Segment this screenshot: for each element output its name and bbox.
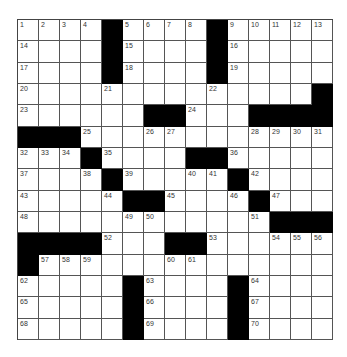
grid-cell[interactable] xyxy=(102,297,123,318)
grid-cell[interactable]: 16 xyxy=(228,41,249,62)
grid-cell[interactable] xyxy=(186,84,207,105)
grid-cell[interactable] xyxy=(228,212,249,233)
grid-cell[interactable] xyxy=(291,148,312,169)
grid-cell[interactable] xyxy=(270,255,291,276)
grid-cell[interactable] xyxy=(165,148,186,169)
grid-cell[interactable] xyxy=(81,84,102,105)
grid-cell[interactable] xyxy=(165,84,186,105)
grid-cell[interactable]: 18 xyxy=(123,63,144,84)
grid-cell[interactable] xyxy=(60,169,81,190)
grid-cell[interactable]: 58 xyxy=(60,255,81,276)
grid-cell[interactable]: 46 xyxy=(228,191,249,212)
grid-cell[interactable]: 17 xyxy=(18,63,39,84)
grid-cell[interactable] xyxy=(312,255,333,276)
grid-cell[interactable] xyxy=(39,84,60,105)
grid-cell[interactable]: 24 xyxy=(186,105,207,126)
grid-cell[interactable]: 54 xyxy=(270,233,291,254)
grid-cell[interactable]: 6 xyxy=(144,20,165,41)
grid-cell[interactable] xyxy=(102,276,123,297)
grid-cell[interactable]: 12 xyxy=(291,20,312,41)
grid-cell[interactable] xyxy=(312,297,333,318)
grid-cell[interactable]: 8 xyxy=(186,20,207,41)
grid-cell[interactable] xyxy=(81,297,102,318)
grid-cell[interactable] xyxy=(207,191,228,212)
grid-cell[interactable] xyxy=(270,41,291,62)
grid-cell[interactable] xyxy=(102,127,123,148)
grid-cell[interactable]: 29 xyxy=(270,127,291,148)
grid-cell[interactable]: 67 xyxy=(249,297,270,318)
grid-cell[interactable] xyxy=(270,169,291,190)
grid-cell[interactable]: 33 xyxy=(39,148,60,169)
grid-cell[interactable] xyxy=(270,297,291,318)
grid-cell[interactable]: 45 xyxy=(165,191,186,212)
grid-cell[interactable] xyxy=(186,319,207,340)
grid-cell[interactable]: 57 xyxy=(39,255,60,276)
grid-cell[interactable]: 55 xyxy=(291,233,312,254)
grid-cell[interactable]: 43 xyxy=(18,191,39,212)
grid-cell[interactable]: 35 xyxy=(102,148,123,169)
grid-cell[interactable]: 41 xyxy=(207,169,228,190)
grid-cell[interactable] xyxy=(102,212,123,233)
grid-cell[interactable]: 28 xyxy=(249,127,270,148)
grid-cell[interactable]: 49 xyxy=(123,212,144,233)
grid-cell[interactable] xyxy=(228,233,249,254)
grid-cell[interactable] xyxy=(291,169,312,190)
grid-cell[interactable] xyxy=(81,63,102,84)
grid-cell[interactable] xyxy=(165,41,186,62)
grid-cell[interactable]: 2 xyxy=(39,20,60,41)
grid-cell[interactable] xyxy=(228,127,249,148)
grid-cell[interactable] xyxy=(39,276,60,297)
grid-cell[interactable] xyxy=(249,148,270,169)
grid-cell[interactable]: 19 xyxy=(228,63,249,84)
grid-cell[interactable] xyxy=(291,297,312,318)
grid-cell[interactable] xyxy=(270,276,291,297)
grid-cell[interactable] xyxy=(60,105,81,126)
grid-cell[interactable]: 5 xyxy=(123,20,144,41)
grid-cell[interactable]: 30 xyxy=(291,127,312,148)
grid-cell[interactable]: 27 xyxy=(165,127,186,148)
grid-cell[interactable] xyxy=(228,84,249,105)
grid-cell[interactable] xyxy=(144,169,165,190)
grid-cell[interactable] xyxy=(123,84,144,105)
grid-cell[interactable] xyxy=(186,212,207,233)
grid-cell[interactable] xyxy=(270,84,291,105)
grid-cell[interactable]: 11 xyxy=(270,20,291,41)
grid-cell[interactable] xyxy=(81,41,102,62)
grid-cell[interactable] xyxy=(39,63,60,84)
grid-cell[interactable]: 70 xyxy=(249,319,270,340)
grid-cell[interactable] xyxy=(186,276,207,297)
grid-cell[interactable] xyxy=(228,105,249,126)
grid-cell[interactable] xyxy=(39,105,60,126)
grid-cell[interactable] xyxy=(102,255,123,276)
grid-cell[interactable] xyxy=(81,276,102,297)
grid-cell[interactable]: 37 xyxy=(18,169,39,190)
grid-cell[interactable] xyxy=(102,319,123,340)
grid-cell[interactable] xyxy=(186,127,207,148)
grid-cell[interactable] xyxy=(186,63,207,84)
grid-cell[interactable] xyxy=(39,41,60,62)
grid-cell[interactable] xyxy=(165,297,186,318)
grid-cell[interactable] xyxy=(144,233,165,254)
grid-cell[interactable] xyxy=(312,319,333,340)
grid-cell[interactable] xyxy=(144,255,165,276)
grid-cell[interactable] xyxy=(144,148,165,169)
grid-cell[interactable]: 22 xyxy=(207,84,228,105)
grid-cell[interactable] xyxy=(165,63,186,84)
grid-cell[interactable]: 60 xyxy=(165,255,186,276)
grid-cell[interactable] xyxy=(291,276,312,297)
grid-cell[interactable] xyxy=(81,319,102,340)
grid-cell[interactable]: 38 xyxy=(81,169,102,190)
grid-cell[interactable]: 31 xyxy=(312,127,333,148)
grid-cell[interactable]: 56 xyxy=(312,233,333,254)
grid-cell[interactable] xyxy=(144,63,165,84)
grid-cell[interactable] xyxy=(81,191,102,212)
grid-cell[interactable] xyxy=(144,84,165,105)
grid-cell[interactable] xyxy=(207,105,228,126)
grid-cell[interactable] xyxy=(312,41,333,62)
grid-cell[interactable]: 44 xyxy=(102,191,123,212)
grid-cell[interactable] xyxy=(270,319,291,340)
grid-cell[interactable] xyxy=(60,63,81,84)
grid-cell[interactable] xyxy=(165,319,186,340)
grid-cell[interactable]: 3 xyxy=(60,20,81,41)
grid-cell[interactable] xyxy=(207,297,228,318)
